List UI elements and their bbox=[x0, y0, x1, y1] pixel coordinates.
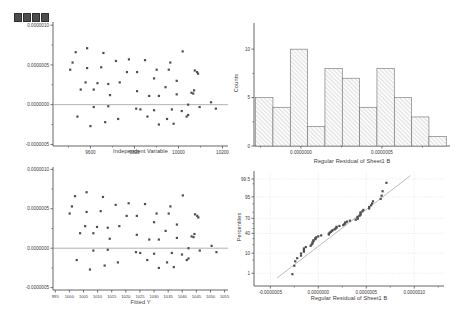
histogram-bar bbox=[308, 127, 325, 146]
data-point-marker bbox=[96, 226, 98, 228]
data-point-marker bbox=[109, 238, 111, 240]
data-point-marker bbox=[117, 261, 119, 263]
tick-label: -0.0000005 bbox=[26, 285, 50, 290]
scatter-residuals-vs-independent[interactable]: 9600980010000102000.00000100.00000050.00… bbox=[26, 22, 230, 155]
data-point-marker bbox=[164, 86, 166, 88]
data-point-marker bbox=[155, 212, 157, 214]
data-point-marker bbox=[380, 198, 382, 200]
data-point-marker bbox=[173, 266, 175, 268]
data-point-marker bbox=[338, 225, 340, 227]
data-point-marker bbox=[215, 251, 217, 253]
data-point-marker bbox=[190, 92, 192, 94]
tick-label: 0.0000005 bbox=[27, 63, 49, 68]
data-point-marker bbox=[75, 51, 77, 53]
tick-label: 10 bbox=[245, 251, 251, 256]
data-point-marker bbox=[176, 80, 178, 82]
data-point-marker bbox=[115, 60, 117, 62]
data-point-marker bbox=[182, 50, 184, 52]
layer-selector-button-2[interactable] bbox=[23, 13, 31, 22]
data-point-marker bbox=[173, 123, 175, 125]
data-point-marker bbox=[344, 221, 346, 223]
histogram-bar bbox=[412, 117, 429, 146]
data-point-marker bbox=[192, 236, 194, 238]
data-point-marker bbox=[153, 253, 155, 255]
x-axis-title-probplot: Regular Residual of Sheet1 B bbox=[259, 295, 439, 301]
histogram-residuals[interactable]: 0.00000000.00000050510 bbox=[245, 23, 450, 155]
data-point-marker bbox=[76, 115, 78, 117]
data-point-marker bbox=[305, 246, 307, 248]
tick-label: 0 bbox=[247, 144, 250, 149]
data-point-marker bbox=[126, 215, 128, 217]
data-point-marker bbox=[107, 105, 109, 107]
tick-label: 5 bbox=[247, 95, 250, 100]
data-point-marker bbox=[315, 236, 317, 238]
y-axis-title-percentiles: Percentiles bbox=[236, 202, 242, 252]
data-point-marker bbox=[76, 259, 78, 261]
tick-label: 0.0000010 bbox=[27, 167, 49, 172]
tick-label: 0.0000010 bbox=[27, 23, 49, 28]
data-point-marker bbox=[128, 58, 130, 60]
data-point-marker bbox=[291, 273, 293, 275]
data-point-marker bbox=[357, 216, 359, 218]
normal-probability-plot[interactable]: -0.00000050.00000000.00000050.000001099.… bbox=[241, 171, 444, 295]
data-point-marker bbox=[349, 220, 351, 222]
data-point-marker bbox=[136, 90, 138, 92]
data-point-marker bbox=[169, 205, 171, 207]
layer-selector-button-3[interactable] bbox=[32, 13, 40, 22]
data-point-marker bbox=[89, 125, 91, 127]
data-point-marker bbox=[118, 225, 120, 227]
data-point-marker bbox=[158, 267, 160, 269]
data-point-marker bbox=[193, 89, 195, 91]
x-axis-title-histogram: Regular Residual of Sheet1 B bbox=[262, 158, 442, 164]
data-point-marker bbox=[92, 249, 94, 251]
data-point-marker bbox=[381, 190, 383, 192]
data-point-marker bbox=[84, 81, 86, 83]
data-point-marker bbox=[346, 220, 348, 222]
data-point-marker bbox=[136, 215, 138, 217]
data-point-marker bbox=[126, 71, 128, 73]
data-point-marker bbox=[158, 238, 160, 240]
data-point-marker bbox=[102, 196, 104, 198]
data-point-marker bbox=[156, 69, 158, 71]
histogram-bar bbox=[429, 136, 446, 146]
data-point-marker bbox=[102, 52, 104, 54]
data-point-marker bbox=[211, 245, 213, 247]
data-point-marker bbox=[69, 212, 71, 214]
data-point-marker bbox=[104, 121, 106, 123]
layer-selector-button-1[interactable] bbox=[14, 13, 22, 22]
tick-label: 95 bbox=[245, 195, 251, 200]
data-point-marker bbox=[168, 69, 170, 71]
data-point-marker bbox=[109, 94, 111, 96]
data-point-marker bbox=[193, 233, 195, 235]
data-point-marker bbox=[362, 209, 364, 211]
data-point-marker bbox=[372, 200, 374, 202]
tick-label: 0.0000000 bbox=[27, 102, 49, 107]
data-point-marker bbox=[92, 232, 94, 234]
layer-selector-button-4[interactable] bbox=[41, 13, 49, 22]
data-point-marker bbox=[136, 71, 138, 73]
tick-label: 0.0000005 bbox=[371, 150, 393, 155]
data-point-marker bbox=[93, 88, 95, 90]
data-point-marker bbox=[165, 230, 167, 232]
data-point-marker bbox=[199, 106, 201, 108]
tick-label: 1 bbox=[247, 271, 250, 276]
data-point-marker bbox=[187, 104, 189, 106]
data-point-marker bbox=[139, 252, 141, 254]
data-point-marker bbox=[144, 203, 146, 205]
data-point-marker bbox=[166, 261, 168, 263]
data-point-marker bbox=[368, 206, 370, 208]
data-point-marker bbox=[89, 268, 91, 270]
scatter-residuals-vs-fitted[interactable]: 9951000100510101015102010251030103510401… bbox=[26, 167, 230, 299]
data-point-marker bbox=[146, 115, 148, 117]
data-point-marker bbox=[190, 235, 192, 237]
x-axis-title-independent-variable: Independent Variable bbox=[53, 148, 228, 154]
data-point-marker bbox=[215, 108, 217, 110]
data-point-marker bbox=[96, 82, 98, 84]
data-point-marker bbox=[136, 234, 138, 236]
data-point-marker bbox=[128, 202, 130, 204]
data-point-marker bbox=[153, 109, 155, 111]
data-point-marker bbox=[194, 69, 196, 71]
data-point-marker bbox=[381, 195, 383, 197]
tick-label: 40 bbox=[245, 231, 251, 236]
data-point-marker bbox=[79, 232, 81, 234]
